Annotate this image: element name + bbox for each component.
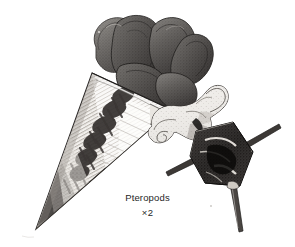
illustration-plate: Pteropods ×2 [0,0,295,247]
caption-title: Pteropods [0,192,295,204]
caption: Pteropods ×2 [0,192,295,219]
caption-magnification: ×2 [0,207,295,219]
